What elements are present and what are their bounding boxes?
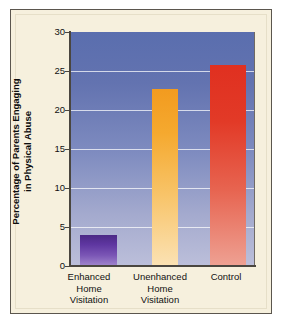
x-label-line: Home [58, 283, 120, 295]
bar-control [210, 65, 246, 266]
y-tick-label-10: 10 [43, 183, 65, 193]
bar-unenhanced-home-visitation [152, 89, 178, 266]
x-axis-line [69, 265, 256, 267]
bar-enhanced-home-visitation [80, 235, 117, 266]
y-axis-title-line-1: Percentage of Parents Engaging [10, 72, 22, 232]
x-tick-label-control: Control [198, 271, 254, 283]
plot-area [70, 32, 255, 266]
x-label-line: Unenhanced [125, 271, 195, 283]
y-tick-label-25: 25 [43, 66, 65, 76]
y-axis-title-line-2: in Physical Abuse [21, 72, 33, 232]
x-label-line: Control [198, 271, 254, 283]
y-tick-label-20: 20 [43, 105, 65, 115]
x-tick-label-enhanced-home-visitation: Enhanced Home Visitation [58, 271, 120, 306]
x-label-line: Enhanced [58, 271, 120, 283]
x-label-line: Visitation [125, 294, 195, 306]
y-tick-label-0: 0 [43, 261, 65, 271]
y-tick-label-15: 15 [43, 144, 65, 154]
x-label-line: Home [125, 283, 195, 295]
y-tick-label-30: 30 [43, 27, 65, 37]
y-axis-line [69, 31, 71, 267]
x-tick-label-unenhanced-home-visitation: Unenhanced Home Visitation [125, 271, 195, 306]
y-axis-title: Percentage of Parents Engaging in Physic… [10, 72, 33, 232]
y-tick-label-5: 5 [43, 222, 65, 232]
figure: Percentage of Parents Engaging in Physic… [0, 0, 284, 336]
x-label-line: Visitation [58, 294, 120, 306]
